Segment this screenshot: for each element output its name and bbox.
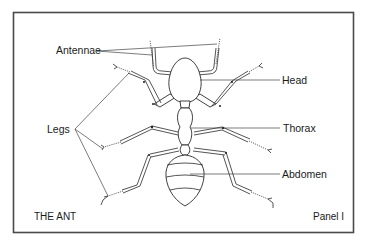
panel-label: Panel I [313,212,344,222]
front-right-leg [194,63,263,107]
abdomen-label: Abdomen [282,169,327,180]
antennae-label: Antennae [56,45,101,56]
head-shape [169,58,201,102]
thorax-label: Thorax [283,123,316,134]
ant-body [166,58,204,206]
head-label: Head [282,75,307,86]
middle-left-leg [101,126,178,150]
diagram-title: THE ANT [34,212,76,222]
front-left-leg [113,64,176,107]
legs-label: Legs [47,124,70,135]
thorax-shape [178,108,193,145]
hind-right-leg [193,148,273,208]
